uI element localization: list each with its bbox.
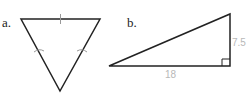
right-angle-marker [222,59,230,66]
base-measure: 18 [165,69,177,80]
figure-b: b. 7.5 18 [109,14,246,80]
equilateral-triangle [21,19,100,91]
figure-a: a. [2,14,100,91]
diagram-canvas: a. b. 7.5 18 [0,0,250,93]
figure-a-label: a. [2,15,11,30]
height-measure: 7.5 [232,37,246,48]
figure-b-label: b. [127,15,137,30]
